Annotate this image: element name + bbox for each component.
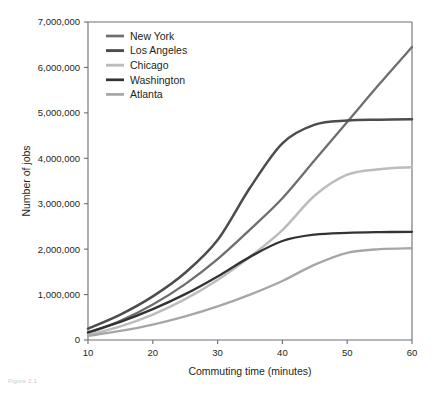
y-tick-label: 7,000,000	[38, 16, 80, 27]
x-tick-label: 30	[212, 347, 223, 358]
legend-label-los-angeles: Los Angeles	[130, 44, 187, 56]
y-tick-label: 0	[75, 334, 80, 345]
x-axis-title: Commuting time (minutes)	[188, 365, 311, 377]
x-tick-label: 50	[342, 347, 353, 358]
y-tick-label: 5,000,000	[38, 107, 80, 118]
x-tick-label: 10	[83, 347, 94, 358]
legend-label-washington: Washington	[130, 74, 185, 86]
y-axis-title: Number of jobs	[20, 145, 32, 216]
y-tick-label: 1,000,000	[38, 289, 80, 300]
x-tick-label: 60	[407, 347, 418, 358]
x-tick-label: 40	[277, 347, 288, 358]
jobs-vs-commuting-time-chart: 01,000,0002,000,0003,000,0004,000,0005,0…	[0, 0, 436, 395]
x-tick-label: 20	[148, 347, 159, 358]
legend-label-atlanta: Atlanta	[130, 88, 163, 100]
y-axis-ticks: 01,000,0002,000,0003,000,0004,000,0005,0…	[38, 16, 88, 345]
figure-caption: Figure 2.1	[8, 378, 37, 384]
legend-label-chicago: Chicago	[130, 59, 169, 71]
y-tick-label: 3,000,000	[38, 198, 80, 209]
y-tick-label: 6,000,000	[38, 62, 80, 73]
y-tick-label: 2,000,000	[38, 244, 80, 255]
y-tick-label: 4,000,000	[38, 153, 80, 164]
legend-label-new-york: New York	[130, 30, 175, 42]
figure-container: 01,000,0002,000,0003,000,0004,000,0005,0…	[0, 0, 436, 395]
x-axis-ticks: 102030405060	[83, 340, 418, 358]
